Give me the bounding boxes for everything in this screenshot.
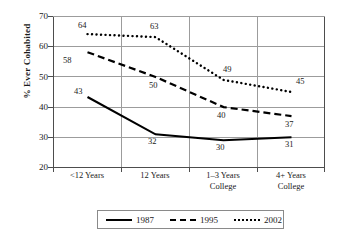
x-tick-label-0: <12 Years — [50, 170, 124, 181]
point-label-1987-3: 31 — [285, 139, 294, 149]
point-label-2002-0: 64 — [78, 20, 87, 30]
legend-label-2002: 2002 — [264, 215, 282, 225]
point-label-1995-0: 58 — [63, 55, 72, 65]
chart-legend: 1987 1995 2002 — [97, 210, 284, 229]
x-tick-label-3-line1: 4+ Years — [254, 170, 328, 181]
legend-entry-1987[interactable]: 1987 — [106, 211, 154, 228]
y-tick-label-50: 50 — [24, 72, 48, 82]
y-tick-label-20: 20 — [24, 162, 48, 172]
point-label-2002-3: 45 — [296, 76, 305, 86]
point-label-2002-1: 63 — [150, 21, 159, 31]
y-tick-label-60: 60 — [24, 41, 48, 51]
x-tick-label-3-line2: College — [254, 181, 328, 192]
legend-entry-2002[interactable]: 2002 — [234, 211, 282, 228]
y-tick-label-30: 30 — [24, 132, 48, 142]
x-tick-label-2-line1: 1–3 Years — [186, 170, 260, 181]
x-tick-label-3: 4+ Years College — [254, 170, 328, 191]
x-tick-label-1: 12 Years — [118, 170, 192, 181]
point-label-1987-2: 30 — [216, 142, 225, 152]
y-tick-marks — [48, 17, 53, 168]
x-tick-label-1-line1: 12 Years — [118, 170, 192, 181]
point-label-1987-0: 43 — [74, 86, 83, 96]
x-tick-label-2-line2: College — [186, 181, 260, 192]
category-separators — [122, 17, 258, 168]
legend-key-dotted-line-icon — [234, 215, 260, 224]
y-tick-label-40: 40 — [24, 102, 48, 112]
point-label-1995-2: 40 — [217, 110, 226, 120]
legend-key-dashed-line-icon — [170, 215, 196, 224]
legend-label-1987: 1987 — [136, 215, 154, 225]
point-label-1995-1: 50 — [149, 80, 158, 90]
legend-key-solid-line-icon — [106, 215, 132, 224]
point-label-1995-3: 37 — [285, 119, 294, 129]
x-tick-label-2: 1–3 Years College — [186, 170, 260, 191]
legend-entry-1995[interactable]: 1995 — [170, 211, 218, 228]
chart-figure: % Ever Cohabited 70 60 50 40 30 20 <12 Y… — [0, 0, 343, 240]
point-label-2002-2: 49 — [223, 64, 232, 74]
y-tick-label-70: 70 — [24, 11, 48, 21]
point-label-1987-1: 32 — [148, 136, 157, 146]
x-tick-label-0-line1: <12 Years — [50, 170, 124, 181]
legend-label-1995: 1995 — [200, 215, 218, 225]
